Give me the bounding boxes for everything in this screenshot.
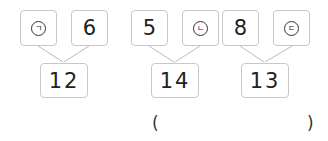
problem-2-sum-box: 14 — [151, 63, 199, 98]
symbol-nieun: ㄴ — [193, 21, 208, 36]
number-value: 6 — [83, 16, 96, 40]
problem-2-right-box: ㄴ — [182, 10, 219, 46]
symbol-digeut: ㄷ — [284, 21, 299, 36]
problem-1-left-box: ㄱ — [20, 10, 57, 46]
sum-value: 14 — [160, 69, 191, 93]
answer-close-paren: ) — [307, 113, 314, 133]
sum-value: 12 — [49, 69, 80, 93]
problem-2-left-box: 5 — [131, 10, 168, 46]
answer-open-paren: ( — [152, 113, 159, 133]
number-value: 8 — [234, 16, 247, 40]
sum-value: 13 — [250, 69, 281, 93]
problem-3-sum-box: 13 — [241, 63, 289, 98]
symbol-giyeok: ㄱ — [31, 21, 46, 36]
number-value: 5 — [143, 16, 156, 40]
problem-1-right-box: 6 — [71, 10, 108, 46]
problem-1-sum-box: 12 — [40, 63, 88, 98]
problem-3-left-box: 8 — [222, 10, 259, 46]
problem-3-right-box: ㄷ — [273, 10, 310, 46]
